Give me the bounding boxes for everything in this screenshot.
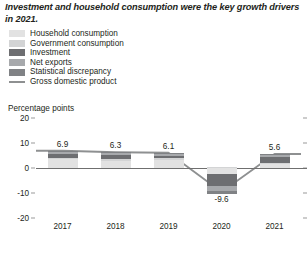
bar-segment (101, 153, 131, 155)
bar-segment (101, 159, 131, 161)
bar-segment (48, 154, 78, 158)
bar-group-2020[interactable]: -9.6 (207, 118, 237, 218)
legend-item-label: Gross domestic product (30, 77, 116, 87)
data-label-2019: 6.1 (163, 142, 174, 151)
y-axis-tick-mark-right (303, 193, 307, 194)
legend-item-label: Statistical discrepancy (30, 67, 111, 77)
data-label-2020: -9.6 (214, 195, 228, 204)
x-axis-label-2018: 2018 (106, 222, 124, 231)
bar-segment (260, 164, 290, 168)
bar-segment (154, 153, 184, 154)
page-title: Investment and household consumption wer… (5, 2, 303, 25)
legend-item-label: Household consumption (30, 29, 118, 39)
y-axis-tick-mark (31, 118, 35, 119)
legend-item-investment[interactable]: Investment (9, 48, 189, 58)
bar-segment (260, 163, 290, 164)
bar-segment (101, 161, 131, 169)
y-axis-tick-mark-right (303, 118, 307, 119)
x-axis-label-2021: 2021 (265, 222, 283, 231)
bar-segment (154, 154, 184, 156)
y-axis-tick-mark (31, 143, 35, 144)
legend-swatch-statistical-discrepancy (9, 69, 25, 76)
legend-swatch-investment (9, 49, 25, 56)
data-label-2017: 6.9 (57, 140, 68, 149)
legend-item-household-consumption[interactable]: Household consumption (9, 29, 189, 39)
legend-swatch-net-exports (9, 59, 25, 66)
chart-legend: Household consumptionGovernment consumpt… (9, 29, 189, 87)
bar-segment (48, 159, 78, 168)
bar-group-2018[interactable]: 6.3 (101, 118, 131, 218)
bar-segment (154, 158, 184, 160)
y-axis-tick-mark (31, 193, 35, 194)
bar-segment (48, 158, 78, 160)
legend-item-gross-domestic-product[interactable]: Gross domestic product (9, 77, 189, 87)
x-axis-label-2019: 2019 (159, 222, 177, 231)
bar-segment (260, 155, 290, 157)
bar-segment (207, 167, 237, 169)
legend-line-swatch-gross-domestic-product (9, 78, 25, 85)
plot-area: 20100-10-206.920176.320186.12019-9.62020… (36, 118, 301, 218)
data-label-2021: 5.6 (269, 143, 280, 152)
legend-item-government-consumption[interactable]: Government consumption (9, 39, 189, 49)
bar-segment (207, 191, 237, 194)
legend-swatch-government-consumption (9, 40, 25, 47)
legend-item-net-exports[interactable]: Net exports (9, 58, 189, 68)
bar-segment (48, 152, 78, 154)
bar-segment (154, 160, 184, 169)
y-axis-title: Percentage points (8, 104, 74, 113)
y-axis-tick-mark-right (303, 218, 307, 219)
legend-item-label: Investment (30, 48, 70, 58)
bar-segment (154, 156, 184, 159)
data-label-2018: 6.3 (110, 141, 121, 150)
bar-group-2021[interactable]: 5.6 (260, 118, 290, 218)
y-axis-tick-mark-right (303, 143, 307, 144)
legend-swatch-household-consumption (9, 30, 25, 37)
legend-item-label: Government consumption (30, 39, 124, 49)
bar-group-2019[interactable]: 6.1 (154, 118, 184, 218)
bar-segment (260, 154, 290, 155)
chart-page: Investment and household consumption wer… (0, 0, 307, 258)
bar-segment (101, 155, 131, 159)
y-axis-tick-mark (31, 218, 35, 219)
legend-item-label: Net exports (30, 58, 72, 68)
bar-segment (101, 152, 131, 153)
x-axis-label-2017: 2017 (53, 222, 71, 231)
bar-segment (48, 151, 78, 152)
legend-item-statistical-discrepancy[interactable]: Statistical discrepancy (9, 67, 189, 77)
x-axis-label-2020: 2020 (212, 222, 230, 231)
y-axis-tick-mark (31, 168, 35, 169)
bar-group-2017[interactable]: 6.9 (48, 118, 78, 218)
bar-segment (207, 174, 237, 186)
bar-segment (260, 157, 290, 163)
